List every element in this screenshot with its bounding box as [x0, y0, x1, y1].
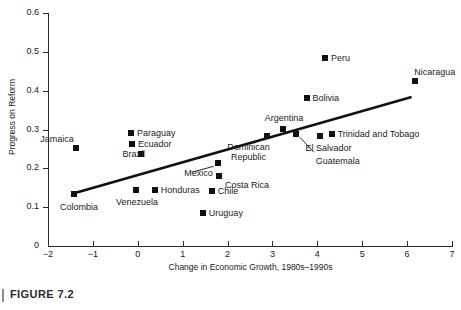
- x-axis-line: [48, 246, 453, 247]
- y-axis-tick-label: 0.5: [0, 47, 39, 56]
- y-axis-tick-label: 0.4: [0, 86, 39, 95]
- data-point-label: Bolivia: [313, 93, 340, 103]
- data-point-marker[interactable]: [322, 55, 328, 61]
- x-axis-tick-label: −2: [28, 249, 68, 259]
- x-axis-tick: [317, 241, 318, 247]
- x-axis-tick-label: −1: [73, 249, 113, 259]
- data-point-label: Mexico: [0, 168, 213, 178]
- y-axis-tick: [43, 91, 49, 92]
- x-axis-tick: [138, 241, 139, 247]
- x-axis-tick-label: 4: [297, 249, 337, 259]
- data-point-marker[interactable]: [128, 130, 134, 136]
- figure-container: −2−10123456700.10.20.30.40.50.6 Progress…: [0, 0, 461, 310]
- x-axis-tick-label: 7: [432, 249, 461, 259]
- x-axis-tick: [272, 241, 273, 247]
- x-axis-tick: [362, 241, 363, 247]
- x-axis-tick: [48, 241, 49, 247]
- y-axis-tick-label: 0.6: [0, 8, 39, 17]
- data-point-marker[interactable]: [412, 78, 418, 84]
- x-axis-tick-label: 6: [387, 249, 427, 259]
- data-point-marker[interactable]: [264, 133, 270, 139]
- x-axis-tick-label: 1: [163, 249, 203, 259]
- x-axis-tick: [228, 241, 229, 247]
- data-point-label: Uruguay: [209, 208, 243, 218]
- data-point-label: Nicaragua: [0, 67, 455, 77]
- data-point-label: Chile: [218, 186, 239, 196]
- y-axis-tick: [43, 13, 49, 14]
- data-point-label: Honduras: [161, 185, 200, 195]
- x-axis-tick: [452, 241, 453, 247]
- data-point-label: Argentina: [0, 113, 303, 123]
- x-axis-tick-label: 0: [118, 249, 158, 259]
- data-point-label: Paraguay: [137, 128, 176, 138]
- data-point-marker[interactable]: [200, 210, 206, 216]
- y-axis-tick: [43, 52, 49, 53]
- data-point-marker[interactable]: [152, 187, 158, 193]
- x-axis-tick-label: 3: [252, 249, 292, 259]
- y-axis-tick-label: 0: [0, 241, 39, 250]
- x-axis-tick: [93, 241, 94, 247]
- x-axis-tick: [407, 241, 408, 247]
- data-point-marker[interactable]: [304, 95, 310, 101]
- y-axis-tick: [43, 130, 49, 131]
- x-axis-tick-label: 2: [208, 249, 248, 259]
- figure-caption: FIGURE 7.2: [10, 288, 74, 300]
- data-point-marker[interactable]: [293, 131, 299, 137]
- y-axis-tick-label: 0.3: [0, 125, 39, 134]
- data-point-marker[interactable]: [280, 126, 286, 132]
- x-axis-tick: [183, 241, 184, 247]
- data-point-marker[interactable]: [209, 188, 215, 194]
- data-point-label: El Salvador: [0, 143, 352, 153]
- data-point-marker[interactable]: [71, 191, 77, 197]
- data-point-label: Venezuela: [0, 197, 158, 207]
- caption-rule: [2, 289, 4, 302]
- x-axis-title: Change in Economic Growth, 1980s–1990s: [48, 262, 453, 272]
- data-point-marker[interactable]: [317, 133, 323, 139]
- data-point-marker[interactable]: [216, 173, 222, 179]
- data-point-label: Trinidad and Tobago: [338, 129, 420, 139]
- data-point-label: Guatemala: [316, 156, 360, 166]
- data-point-marker[interactable]: [329, 131, 335, 137]
- data-point-label: Peru: [331, 53, 350, 63]
- x-axis-tick-label: 5: [342, 249, 382, 259]
- data-point-marker[interactable]: [133, 187, 139, 193]
